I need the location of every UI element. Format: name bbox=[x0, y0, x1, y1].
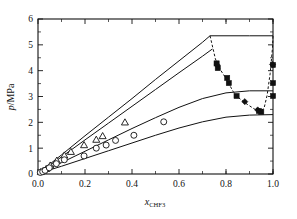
marker-square bbox=[225, 75, 230, 80]
svg-text:3: 3 bbox=[28, 92, 33, 102]
marker-triangle bbox=[99, 133, 106, 139]
figure-container: 0.00.20.40.60.81.00123456 xCHF3 p/MPa bbox=[0, 0, 297, 219]
svg-text:0.6: 0.6 bbox=[173, 179, 185, 189]
marker-circle bbox=[93, 145, 99, 151]
svg-text:0.8: 0.8 bbox=[220, 179, 232, 189]
y-axis-title: p/MPa bbox=[5, 83, 16, 111]
svg-text:1: 1 bbox=[28, 144, 33, 154]
marker-triangle bbox=[121, 119, 128, 125]
svg-text:0.0: 0.0 bbox=[32, 179, 44, 189]
marker-circle bbox=[46, 165, 52, 171]
marker-circle bbox=[131, 132, 137, 138]
x-axis-title: xCHF3 bbox=[144, 196, 166, 208]
svg-text:xCHF3: xCHF3 bbox=[144, 196, 166, 208]
model-curve-third bbox=[38, 91, 273, 174]
svg-text:2: 2 bbox=[28, 118, 33, 128]
svg-text:4: 4 bbox=[28, 66, 33, 76]
svg-text:p/MPa: p/MPa bbox=[5, 83, 16, 111]
marker-circle bbox=[103, 142, 109, 148]
marker-square bbox=[270, 80, 275, 85]
marker-circle bbox=[53, 161, 59, 167]
marker-circle bbox=[81, 153, 87, 159]
svg-text:0: 0 bbox=[28, 169, 33, 179]
marker-circle bbox=[61, 157, 67, 163]
chart-canvas: 0.00.20.40.60.81.00123456 xCHF3 p/MPa bbox=[0, 0, 297, 219]
marker-square bbox=[226, 80, 231, 85]
vle-dashed-curve bbox=[210, 36, 273, 112]
svg-text:5: 5 bbox=[28, 40, 33, 50]
marker-triangle bbox=[93, 136, 100, 142]
svg-text:0.2: 0.2 bbox=[79, 179, 91, 189]
marker-circle bbox=[161, 119, 167, 125]
marker-square bbox=[270, 93, 275, 98]
svg-text:0.4: 0.4 bbox=[126, 179, 138, 189]
model-curve-bottom bbox=[38, 115, 273, 174]
marker-circle bbox=[113, 137, 119, 143]
svg-text:6: 6 bbox=[28, 14, 33, 24]
data-markers bbox=[37, 61, 275, 176]
svg-text:1.0: 1.0 bbox=[267, 179, 279, 189]
marker-square bbox=[234, 93, 239, 98]
